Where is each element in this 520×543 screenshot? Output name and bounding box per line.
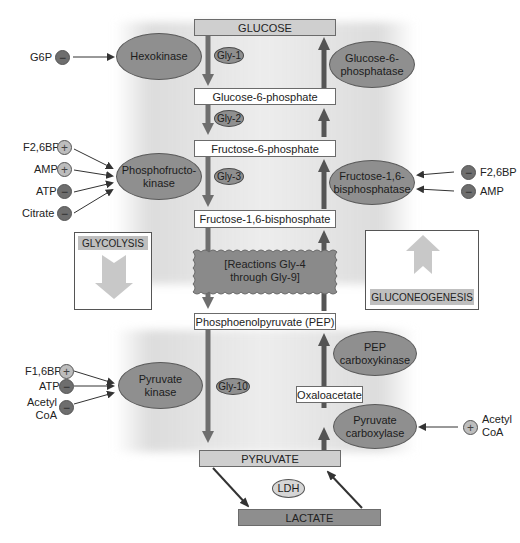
glucose-box: GLUCOSE — [194, 19, 336, 36]
regulator-amp-label: AMP — [34, 163, 58, 176]
step-gly-10: Gly-10 — [216, 378, 250, 395]
lactate-box: LACTATE — [238, 509, 381, 526]
step-gly-2: Gly-2 — [214, 110, 244, 127]
regulator-f16bp-plus-icon: + — [59, 364, 74, 379]
pyruvate-carboxylase-enzyme: Pyruvate carboxylase — [333, 404, 417, 449]
fructose-6-phosphate-box: Fructose-6-phosphate — [194, 140, 336, 157]
regulator-citrate-minus-icon: − — [57, 206, 72, 221]
regulator-acetylcoa-plus-icon: + — [463, 420, 478, 435]
fructose-1-6-bisphosphate-box: Fructose-1,6-bisphosphate — [194, 210, 336, 228]
regulator-acetylcoa-minus-icon: − — [59, 400, 74, 415]
pep-box: Phosphoenolpyruvate (PEP) — [194, 313, 336, 330]
regulator-citrate-label: Citrate — [22, 207, 54, 220]
gluconeogenesis-title: GLUCONEOGENESIS — [370, 289, 474, 305]
regulator-atp-label-2: ATP — [39, 380, 60, 393]
gluconeogenesis-panel: GLUCONEOGENESIS — [365, 230, 479, 310]
regulator-f16bp-label: F1,6BP — [25, 365, 62, 378]
glycolysis-down-arrow-icon — [75, 233, 153, 311]
lactate-to-pyruvate-arrow — [328, 472, 362, 508]
fructose-1-6-bisphosphatase-enzyme: Fructose-1,6- bisphosphatase — [329, 160, 415, 205]
regulator-f26bp-label-2: F2,6BP — [480, 166, 517, 179]
reactions-label: [Reactions Gly-4 through Gly-9] — [193, 258, 337, 284]
regulator-f26bp-plus-icon: + — [57, 140, 72, 155]
ldh-enzyme: LDH — [272, 479, 305, 498]
step-gly-1: Gly-1 — [214, 47, 244, 64]
pep-carboxykinase-enzyme: PEP carboxykinase — [333, 331, 417, 376]
regulator-atp-minus-icon: − — [57, 184, 72, 199]
pyruvate-kinase-enzyme: Pyruvate kinase — [118, 362, 203, 409]
regulator-f26bp-minus-icon: − — [461, 165, 476, 180]
regulator-amp-minus-icon: − — [461, 184, 476, 199]
glucose-6-phosphatase-enzyme: Glucose-6- phosphatase — [329, 41, 415, 88]
regulator-atp-label: ATP — [36, 185, 57, 198]
pyruvate-box: PYRUVATE — [199, 450, 341, 467]
regulator-g6p-label: G6P — [30, 51, 52, 64]
regulator-acetylcoa-label: Acetyl CoA — [27, 396, 57, 422]
regulator-amp-label-2: AMP — [480, 185, 504, 198]
step-gly-3: Gly-3 — [214, 168, 244, 185]
oxaloacetate-box: Oxaloacetate — [296, 386, 363, 403]
regulator-atp-minus-icon-2: − — [59, 379, 74, 394]
phosphofructokinase-enzyme: Phosphofructo- kinase — [116, 153, 202, 200]
glycolysis-panel: GLYCOLYSIS — [74, 232, 152, 310]
hexokinase-enzyme: Hexokinase — [116, 33, 202, 80]
glucose-6-phosphate-box: Glucose-6-phosphate — [194, 88, 336, 105]
regulator-f26bp-label: F2,6BP — [23, 141, 60, 154]
regulator-amp-plus-icon: + — [57, 162, 72, 177]
regulator-acetylcoa-label-2: Acetyl CoA — [482, 413, 512, 439]
regulator-g6p-minus-icon: − — [55, 50, 70, 65]
pyruvate-to-lactate-arrow — [213, 468, 248, 506]
